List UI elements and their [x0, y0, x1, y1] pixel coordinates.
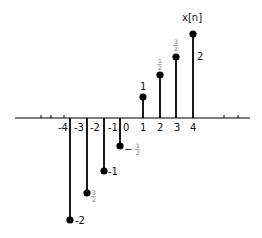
value-label-n-3-den: 2 — [92, 196, 96, 203]
stem-plot: x[n] -4 -3 -2 -1 0 1 2 3 4 -2 -1 − 1 2 3… — [0, 0, 262, 238]
tick-label-n-1: -1 — [108, 122, 118, 133]
value-label-n1: 1 — [140, 81, 146, 92]
value-label-n-1-num: 1 — [136, 142, 140, 149]
tick-label-n0: 0 — [123, 122, 129, 133]
value-label-n-4: -2 — [75, 215, 85, 226]
stem-head-n1 — [139, 93, 146, 100]
tick-label-n4: 4 — [190, 122, 196, 133]
value-label-n3-num: 3 — [174, 38, 178, 45]
value-label-n-1-sign: − — [124, 144, 132, 155]
stem-head-n-2 — [100, 167, 107, 174]
tick-label-n2: 2 — [157, 122, 163, 133]
plot-canvas: x[n] -4 -3 -2 -1 0 1 2 3 4 -2 -1 − 1 2 3… — [0, 0, 262, 238]
tick-label-n-3: -3 — [74, 122, 84, 133]
value-label-n2-num: 1 — [158, 57, 162, 64]
value-label-n-2: -1 — [108, 166, 118, 177]
stem-head-n-1 — [116, 142, 123, 149]
stem-head-n3 — [172, 53, 179, 60]
stem-head-n4 — [189, 30, 196, 37]
tick-label-n-4: -4 — [58, 122, 68, 133]
value-label-n-1-den: 2 — [136, 149, 140, 156]
stem-heads-negative — [66, 142, 123, 223]
tick-label-n3: 3 — [174, 122, 180, 133]
value-label-n-3-num: 3 — [92, 189, 96, 196]
tick-label-n-2: -2 — [90, 122, 100, 133]
value-label-n4: 2 — [197, 51, 203, 62]
tick-label-n1: 1 — [140, 122, 146, 133]
stem-head-n-3 — [83, 189, 90, 196]
stems-positive — [143, 34, 193, 118]
stem-head-n2 — [156, 71, 163, 78]
value-label-n2-den: 2 — [158, 64, 162, 71]
tick-labels: -4 -3 -2 -1 0 1 2 3 4 — [58, 122, 196, 133]
stem-head-n-4 — [66, 216, 73, 223]
value-label-n3-den: 2 — [174, 45, 178, 52]
stem-heads-positive — [139, 30, 196, 100]
plot-title: x[n] — [182, 12, 202, 23]
